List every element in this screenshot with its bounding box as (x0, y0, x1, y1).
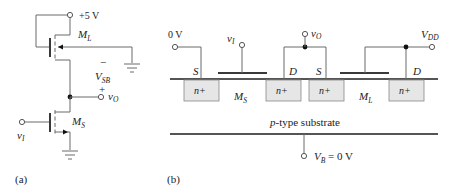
substrate-label: p-type substrate (269, 116, 340, 128)
terminal-s-ms: S (193, 65, 199, 77)
ml-label: ML (77, 28, 91, 43)
n-plus-label: n+ (399, 85, 411, 96)
vdd-terminal (429, 44, 434, 49)
ms-drain-wire (55, 97, 70, 112)
ml-drain-wire (55, 18, 70, 35)
body-label: VB = 0 V (314, 150, 353, 165)
ground-source-terminal (172, 44, 177, 49)
ml-body-arrow (58, 45, 63, 50)
gate-feedback-wire (36, 15, 68, 47)
supply-terminal (67, 12, 72, 17)
schematic-a: +5 V ML − VSB + vO vI MS (15, 10, 140, 186)
vo-label: vO (108, 90, 119, 104)
output-terminal-b (302, 31, 307, 36)
cross-section-b: n+ n+ n+ n+ MS ML S D S D 0 V vI vO (167, 27, 439, 186)
ms-source-wire (55, 132, 70, 150)
circuit-diagram: +5 V ML − VSB + vO vI MS (0, 0, 454, 189)
ms-label-b: MS (233, 90, 247, 105)
output-terminal (98, 94, 103, 99)
input-terminal (19, 119, 24, 124)
vdd-node (404, 45, 409, 50)
vi-label-b: vI (227, 32, 235, 46)
vsb-minus: − (100, 56, 106, 68)
body-terminal (301, 153, 306, 158)
n-plus-label: n+ (276, 85, 288, 96)
input-terminal-b (239, 42, 244, 47)
caption-b: (b) (167, 173, 180, 186)
caption-a: (a) (15, 173, 28, 186)
vi-label: vI (17, 129, 25, 143)
n-plus-label: n+ (194, 85, 206, 96)
n-plus-label: n+ (319, 85, 331, 96)
ml-source-wire (55, 60, 70, 97)
vdd-label: VDD (421, 28, 439, 42)
terminal-d-ml: D (412, 65, 421, 77)
vo-label-b: vO (311, 27, 322, 41)
supply-label: +5 V (79, 10, 100, 21)
ml-label-b: ML (358, 90, 372, 105)
terminal-d-ms: D (288, 65, 297, 77)
vsb-plus: + (99, 83, 105, 95)
zero-volt-label: 0 V (168, 29, 183, 40)
ms-label: MS (71, 115, 85, 130)
terminal-s-ml: S (316, 65, 322, 77)
ms-source-arrow (63, 130, 68, 135)
